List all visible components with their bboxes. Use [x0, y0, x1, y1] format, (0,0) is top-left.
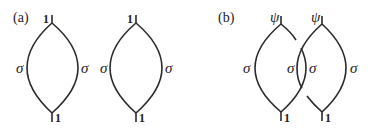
- panel-a-label: (a): [13, 10, 29, 26]
- loop-b2-left-label: σ: [309, 60, 317, 76]
- loop-a1-right-strand: [52, 23, 78, 113]
- loop-a1-top-label: 1: [43, 12, 49, 26]
- panel-b-label: (b): [218, 10, 235, 26]
- loop-a2-right-label: σ: [165, 60, 173, 76]
- loop-b1-top-label: ψ: [270, 9, 280, 25]
- loop-a2-right-strand: [136, 23, 162, 113]
- diagram-canvas: (a) 1 σ σ 1 1 σ σ 1 (b): [0, 0, 368, 128]
- loop-b2-left-strand-lower: [307, 96, 322, 112]
- loop-b2-top-label: ψ: [311, 9, 321, 25]
- loop-b1-right-strand-lower: [281, 48, 306, 112]
- loop-a1-left-label: σ: [16, 60, 24, 76]
- loop-a1-left-strand: [27, 23, 52, 113]
- loop-b1-bottom-label: 1: [284, 111, 290, 125]
- panel-b: (b) ψ σ σ 1 ψ σ σ 1: [218, 9, 358, 125]
- loop-b2-bottom-label: 1: [325, 111, 331, 125]
- loop-a1: 1 σ σ 1: [16, 12, 89, 125]
- loop-a1-right-label: σ: [81, 60, 89, 76]
- loop-b1-left-strand: [255, 24, 281, 112]
- loop-b2-right-label: σ: [350, 60, 358, 76]
- panel-a: (a) 1 σ σ 1 1 σ σ 1: [13, 10, 173, 125]
- loop-b1-left-label: σ: [243, 60, 251, 76]
- loop-a2-bottom-label: 1: [139, 111, 145, 125]
- loop-a1-bottom-label: 1: [55, 111, 61, 125]
- loop-a2-top-label: 1: [127, 12, 133, 26]
- loop-b1-right-label: σ: [287, 60, 295, 76]
- loop-b2-right-strand: [322, 24, 346, 112]
- loop-a2: 1 σ σ 1: [100, 12, 173, 125]
- loop-a2-left-label: σ: [100, 60, 108, 76]
- loop-b1-right-strand-upper: [281, 24, 296, 40]
- loop-b2-left-strand-upper: [297, 24, 322, 88]
- loop-a2-left-strand: [110, 23, 136, 113]
